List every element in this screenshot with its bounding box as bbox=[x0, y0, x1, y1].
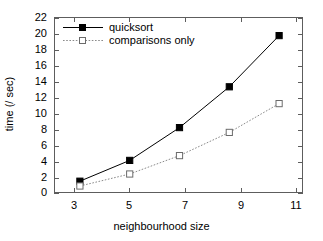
y-tick-label-0: 0 bbox=[25, 187, 47, 198]
legend-label-comparisons-only: comparisons only bbox=[109, 34, 195, 47]
data-point-2-11 bbox=[276, 101, 282, 107]
x-tick-label-3: 3 bbox=[62, 200, 86, 211]
x-tick-label-5: 5 bbox=[117, 200, 141, 211]
data-point-2-5 bbox=[127, 171, 133, 177]
y-tick-label-16: 16 bbox=[25, 60, 47, 71]
series-line-1 bbox=[80, 36, 279, 182]
legend: quicksort comparisons only bbox=[63, 21, 213, 47]
y-tick-label-8: 8 bbox=[25, 124, 47, 135]
x-tick-label-9: 9 bbox=[229, 200, 253, 211]
y-tick-label-14: 14 bbox=[25, 76, 47, 87]
plot-area: 22 20 18 16 14 12 10 8 6 4 2 0 3 5 7 9 1… bbox=[54, 17, 303, 193]
x-tick-label-11: 11 bbox=[284, 200, 308, 211]
chart-container: time (/ sec) bbox=[0, 0, 323, 241]
y-tick-label-2: 2 bbox=[25, 172, 47, 183]
x-tick-label-7: 7 bbox=[173, 200, 197, 211]
data-point-1-5 bbox=[127, 157, 133, 163]
y-tick-label-10: 10 bbox=[25, 108, 47, 119]
legend-entry-comparisons-only: comparisons only bbox=[63, 34, 213, 47]
legend-entry-quicksort: quicksort bbox=[63, 21, 213, 34]
series-line-2 bbox=[80, 104, 279, 186]
data-point-1-11 bbox=[276, 33, 282, 39]
legend-label-quicksort: quicksort bbox=[109, 21, 153, 34]
y-tick-label-22: 22 bbox=[25, 12, 47, 23]
x-axis-title: neighbourhood size bbox=[0, 220, 323, 232]
data-point-2-7 bbox=[176, 153, 182, 159]
y-tick-label-20: 20 bbox=[25, 28, 47, 39]
y-axis-title: time (/ sec) bbox=[3, 54, 15, 154]
legend-swatch-comparisons-only bbox=[63, 34, 103, 47]
series-1 bbox=[77, 33, 282, 185]
data-point-1-9 bbox=[226, 84, 232, 90]
data-point-2-9 bbox=[226, 129, 232, 135]
y-tick-label-6: 6 bbox=[25, 140, 47, 151]
y-tick-label-12: 12 bbox=[25, 92, 47, 103]
y-tick-label-18: 18 bbox=[25, 44, 47, 55]
data-point-2-3 bbox=[77, 183, 83, 189]
y-tick-label-4: 4 bbox=[25, 156, 47, 167]
legend-swatch-quicksort bbox=[63, 21, 103, 34]
series-2 bbox=[77, 101, 282, 190]
data-point-1-7 bbox=[176, 125, 182, 131]
